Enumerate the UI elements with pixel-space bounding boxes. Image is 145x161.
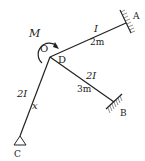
joint-label-o: O: [40, 43, 48, 54]
pin-support-c-icon: [14, 136, 26, 145]
member-oa-length: 2m: [90, 37, 105, 47]
support-label-a: A: [132, 11, 140, 21]
member-oc-stiffness: 2I: [16, 88, 28, 99]
member-oa: [50, 23, 126, 57]
joint-label-d: D: [58, 54, 66, 65]
member-db-length: 3m: [77, 84, 92, 94]
member-db-stiffness: 2I: [85, 70, 97, 81]
moment-label: M: [28, 27, 41, 40]
support-label-c: C: [14, 149, 21, 159]
member-oa-stiffness: I: [93, 23, 99, 34]
member-oc-coordinate: x: [32, 100, 38, 111]
frame-diagram: M O D I 2m 2I 3m 2I x A B C: [0, 0, 145, 161]
support-label-b: B: [120, 108, 127, 118]
